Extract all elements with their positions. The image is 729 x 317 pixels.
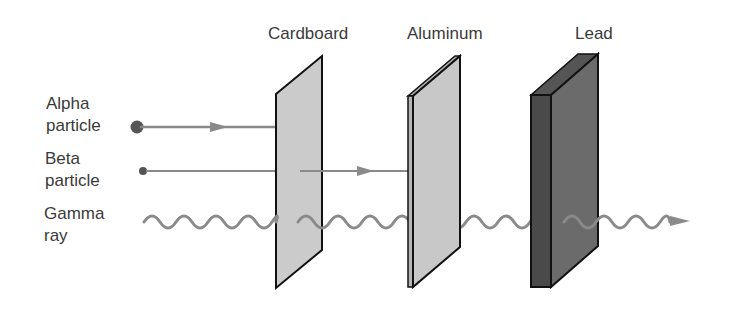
aluminum-panel [408, 56, 460, 287]
radiation-penetration-diagram [0, 0, 729, 317]
alpha-label-line2: particle [46, 116, 101, 136]
beta-arrow-icon [357, 166, 374, 176]
cardboard-label: Cardboard [268, 24, 348, 44]
alpha-particle-path [131, 121, 277, 134]
beta-particle-dot [139, 167, 147, 175]
aluminum-label: Aluminum [407, 24, 483, 44]
gamma-ray-path [144, 216, 535, 228]
alpha-arrow-icon [210, 122, 228, 132]
alpha-label-line1: Alpha [46, 94, 89, 114]
lead-label: Lead [575, 24, 613, 44]
gamma-arrow-icon [670, 216, 690, 226]
lead-panel [531, 54, 598, 287]
beta-label-line2: particle [45, 171, 100, 191]
beta-particle-path [139, 167, 276, 175]
gamma-label-line2: ray [44, 226, 68, 246]
beta-label-line1: Beta [45, 149, 80, 169]
gamma-label-line1: Gamma [44, 204, 104, 224]
